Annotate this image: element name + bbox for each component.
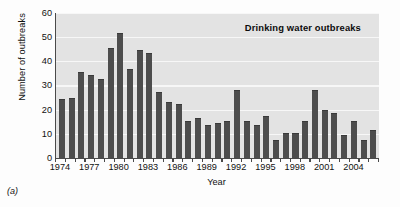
y-tick-label: 50 <box>42 32 52 42</box>
bar-slot <box>184 13 194 159</box>
bar-slot <box>115 13 125 159</box>
y-tick-label: 10 <box>42 129 52 139</box>
bar[interactable] <box>302 121 308 158</box>
plot-area: Drinking water outbreaks <box>55 13 379 160</box>
bar[interactable] <box>156 92 162 158</box>
x-tick-label: 1980 <box>108 162 128 172</box>
bar-slot <box>106 13 116 159</box>
bar[interactable] <box>98 79 104 158</box>
bar[interactable] <box>312 90 318 158</box>
bar-slot <box>252 13 262 159</box>
bar-slot <box>222 13 232 159</box>
bar[interactable] <box>205 125 211 158</box>
bar[interactable] <box>322 110 328 158</box>
bar-slot <box>135 13 145 159</box>
bar-slot <box>242 13 252 159</box>
bar[interactable] <box>137 50 143 158</box>
y-tick-label: 20 <box>42 105 52 115</box>
bar-slot <box>164 13 174 159</box>
bar-slot <box>300 13 310 159</box>
bar-slot <box>232 13 242 159</box>
bar[interactable] <box>341 135 347 158</box>
bar-slot <box>261 13 271 159</box>
bar-slot <box>154 13 164 159</box>
bar[interactable] <box>59 99 65 158</box>
bar[interactable] <box>234 90 240 158</box>
bar-slot <box>145 13 155 159</box>
bar-slot <box>125 13 135 159</box>
y-tick-label: 60 <box>42 8 52 18</box>
bar[interactable] <box>146 53 152 158</box>
bar[interactable] <box>331 113 337 158</box>
bar-slot <box>271 13 281 159</box>
bar[interactable] <box>127 69 133 159</box>
bar-slot <box>67 13 77 159</box>
bar-slot <box>339 13 349 159</box>
bar-slot <box>86 13 96 159</box>
y-axis-tick-labels: 0102030405060 <box>30 8 52 158</box>
bar-slot <box>349 13 359 159</box>
bar[interactable] <box>117 33 123 158</box>
bar-slot <box>281 13 291 159</box>
x-axis-title: Year <box>55 177 378 187</box>
x-tick-label: 1986 <box>167 162 187 172</box>
bar[interactable] <box>370 130 376 158</box>
bar-slot <box>193 13 203 159</box>
bar[interactable] <box>361 140 367 158</box>
bar-slot <box>310 13 320 159</box>
bar[interactable] <box>254 125 260 158</box>
bar[interactable] <box>351 121 357 158</box>
bar[interactable] <box>224 121 230 158</box>
bar[interactable] <box>69 98 75 158</box>
y-tick-label: 30 <box>42 80 52 90</box>
bar-slot <box>213 13 223 159</box>
bar[interactable] <box>78 72 84 158</box>
bar[interactable] <box>108 48 114 158</box>
x-tick-label: 2001 <box>314 162 334 172</box>
bar-slot <box>174 13 184 159</box>
bar-slot <box>76 13 86 159</box>
bar-series <box>56 13 379 159</box>
x-tick-label: 1983 <box>138 162 158 172</box>
bar-slot <box>96 13 106 159</box>
x-tick-mark <box>378 158 379 162</box>
x-tick-label: 1974 <box>50 162 70 172</box>
bar-slot <box>291 13 301 159</box>
bar[interactable] <box>195 118 201 158</box>
bar[interactable] <box>176 104 182 158</box>
bar-slot <box>203 13 213 159</box>
x-axis-tick-labels: 1974197719801983198619891992199519982001… <box>55 162 378 176</box>
x-tick-label: 2004 <box>343 162 363 172</box>
bar[interactable] <box>166 102 172 158</box>
y-axis-title: Number of outbreaks <box>17 0 27 127</box>
panel-caption: (a) <box>7 186 18 196</box>
bar[interactable] <box>215 123 221 158</box>
bar[interactable] <box>244 121 250 158</box>
figure-panel-a: Number of outbreaks 0102030405060 Drinki… <box>0 0 400 207</box>
bar-slot <box>320 13 330 159</box>
chart-title: Drinking water outbreaks <box>245 22 361 33</box>
bar[interactable] <box>185 121 191 158</box>
x-tick-label: 1989 <box>196 162 216 172</box>
bar[interactable] <box>283 133 289 158</box>
bar-slot <box>57 13 67 159</box>
bar-slot <box>330 13 340 159</box>
x-tick-label: 1992 <box>226 162 246 172</box>
bar[interactable] <box>263 116 269 158</box>
y-tick-label: 40 <box>42 56 52 66</box>
x-tick-label: 1998 <box>285 162 305 172</box>
bar[interactable] <box>88 75 94 158</box>
bar-slot <box>359 13 369 159</box>
bar[interactable] <box>273 140 279 158</box>
bar-slot <box>369 13 379 159</box>
bar[interactable] <box>292 133 298 158</box>
x-tick-label: 1995 <box>255 162 275 172</box>
x-tick-label: 1977 <box>79 162 99 172</box>
